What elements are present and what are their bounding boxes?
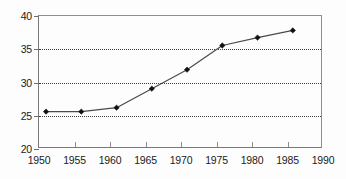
data-point-1951: [43, 109, 48, 114]
data-point-1981: [255, 35, 260, 40]
data-point-1986: [290, 28, 295, 33]
y-tick-label-25: 25: [21, 110, 32, 122]
chart-screenshot: 2025303540 19501955196019651970197519801…: [0, 0, 346, 179]
data-point-1966: [149, 86, 154, 91]
x-tick-label-1975: 1975: [205, 154, 228, 166]
series-layer: [39, 16, 321, 147]
y-tick-label-35: 35: [21, 43, 32, 55]
x-tick-label-1950: 1950: [28, 154, 51, 166]
x-tick-label-1985: 1985: [276, 154, 299, 166]
y-tick-label-40: 40: [21, 10, 32, 22]
x-tick-label-1980: 1980: [241, 154, 264, 166]
x-tick-label-1960: 1960: [99, 154, 122, 166]
x-tick-label-1990: 1990: [312, 154, 335, 166]
plot-area: 2025303540 19501955196019651970197519801…: [38, 15, 322, 148]
data-point-1961: [114, 105, 119, 110]
y-tick-label-30: 30: [21, 77, 32, 89]
x-tick-label-1970: 1970: [170, 154, 193, 166]
data-point-1956: [79, 109, 84, 114]
y-tick-20: [34, 149, 39, 150]
x-tick-label-1965: 1965: [134, 154, 157, 166]
series-line-1: [46, 30, 293, 111]
x-tick-label-1955: 1955: [63, 154, 86, 166]
